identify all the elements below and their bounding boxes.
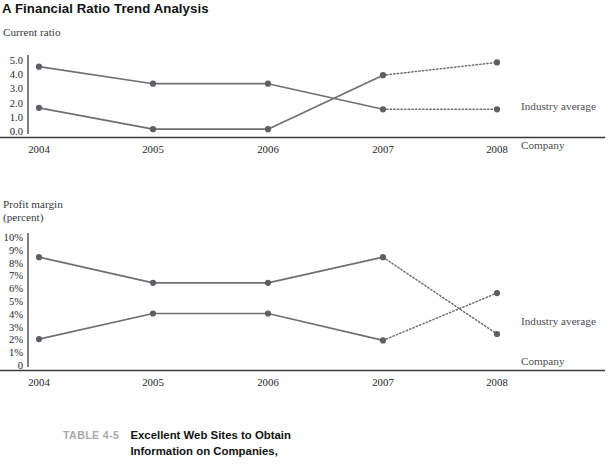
data-point-marker	[380, 254, 386, 260]
page-title: A Financial Ratio Trend Analysis	[2, 1, 209, 16]
y-tick-label: 2%	[0, 334, 23, 345]
chart2-series-label-company: Company	[521, 355, 565, 367]
data-point-marker	[494, 331, 500, 337]
y-tick-label: 2.0	[0, 98, 23, 109]
data-point-marker	[36, 336, 42, 342]
x-tick-label: 2008	[457, 376, 537, 388]
chart2-axis-caption-unit: (percent)	[3, 211, 43, 224]
y-tick-label: 4%	[0, 309, 23, 320]
chart-profit-margin: 10%9%8%7%6%5%4%3%2%1%0 20042005200620072…	[0, 225, 611, 390]
chart1-series-label-industry-average: Industry average	[521, 100, 596, 112]
data-point-marker	[494, 290, 500, 296]
x-tick-label: 2006	[228, 143, 308, 155]
table-caption: TABLE 4-5Excellent Web Sites to ObtainIn…	[63, 428, 291, 459]
data-point-marker	[150, 126, 156, 132]
y-tick-label: 7%	[0, 270, 23, 281]
x-tick-label: 2007	[343, 143, 423, 155]
table-caption-title-line2: Information on Companies,	[130, 444, 291, 460]
y-tick-label: 0.0	[0, 126, 23, 137]
data-point-marker	[265, 126, 271, 132]
x-tick-label: 2004	[0, 143, 79, 155]
chart2-plot-area	[0, 225, 611, 390]
data-point-marker	[150, 81, 156, 87]
y-tick-label: 1.0	[0, 112, 23, 123]
series-line-solid-0	[39, 67, 383, 110]
chart2-series-label-industry-average: Industry average	[521, 315, 596, 327]
y-tick-label: 3.0	[0, 83, 23, 94]
series-line-projected-0	[383, 257, 497, 334]
y-tick-label: 0	[0, 360, 23, 371]
y-tick-label: 4.0	[0, 69, 23, 80]
y-tick-label: 8%	[0, 258, 23, 269]
chart2-axis-caption-primary: Profit margin	[3, 198, 63, 211]
data-point-marker	[150, 280, 156, 286]
data-point-marker	[36, 64, 42, 70]
y-tick-label: 1%	[0, 347, 23, 358]
y-tick-label: 10%	[0, 232, 23, 243]
data-point-marker	[380, 106, 386, 112]
data-point-marker	[265, 81, 271, 87]
data-point-marker	[494, 106, 500, 112]
data-point-marker	[265, 280, 271, 286]
x-tick-label: 2006	[228, 376, 308, 388]
data-point-marker	[380, 337, 386, 343]
data-point-marker	[36, 254, 42, 260]
chart1-series-label-company: Company	[521, 139, 565, 151]
y-tick-label: 6%	[0, 283, 23, 294]
y-tick-label: 5.0	[0, 55, 23, 66]
x-tick-label: 2005	[113, 376, 193, 388]
data-point-marker	[265, 310, 271, 316]
table-caption-number: TABLE 4-5	[63, 429, 119, 441]
data-point-marker	[36, 105, 42, 111]
y-tick-label: 9%	[0, 245, 23, 256]
y-tick-label: 3%	[0, 322, 23, 333]
chart-current-ratio: 5.04.03.02.01.00.0 20042005200620072008 …	[0, 45, 611, 160]
data-point-marker	[150, 310, 156, 316]
series-line-solid-0	[39, 257, 383, 283]
x-tick-label: 2005	[113, 143, 193, 155]
y-tick-label: 5%	[0, 296, 23, 307]
series-line-projected-1	[383, 62, 497, 75]
x-tick-label: 2007	[343, 376, 423, 388]
data-point-marker	[380, 72, 386, 78]
series-line-projected-1	[383, 293, 497, 340]
chart1-axis-caption: Current ratio	[3, 26, 60, 39]
data-point-marker	[494, 59, 500, 65]
figure-page: A Financial Ratio Trend Analysis Current…	[0, 0, 611, 465]
series-line-solid-1	[39, 314, 383, 341]
x-tick-label: 2004	[0, 376, 79, 388]
table-caption-title-line1: Excellent Web Sites to Obtain	[130, 428, 291, 444]
table-caption-title: Excellent Web Sites to ObtainInformation…	[130, 428, 291, 459]
